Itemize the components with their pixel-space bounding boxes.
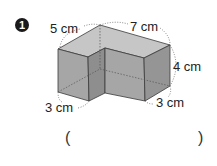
- dimension-label-height: 4 cm: [173, 60, 201, 73]
- left-front-face: [58, 49, 89, 101]
- dimension-label-top-left: 5 cm: [50, 22, 78, 35]
- answer-open-paren: (: [65, 130, 70, 146]
- dimension-label-top-right: 7 cm: [130, 20, 158, 33]
- dimension-label-bottom-left: 3 cm: [45, 101, 73, 114]
- answer-close-paren: ): [198, 130, 203, 146]
- dimension-label-bottom-right: 3 cm: [156, 96, 184, 109]
- answer-blank[interactable]: [75, 130, 195, 148]
